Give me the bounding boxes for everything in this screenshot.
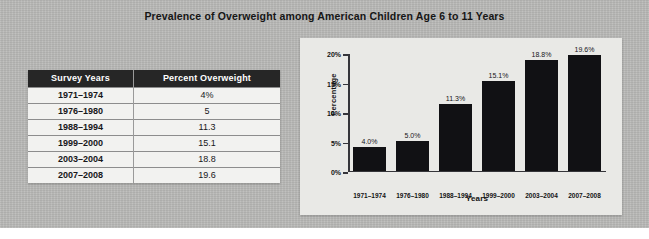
cell-survey-years: 1976–1980 bbox=[28, 104, 134, 120]
table-row: 1988–199411.3 bbox=[28, 120, 280, 136]
bar-value-label: 5.0% bbox=[405, 132, 421, 139]
y-axis-tick-label: 20% bbox=[327, 51, 341, 58]
y-axis-tick bbox=[343, 143, 348, 145]
table-row: 1999–200015.1 bbox=[28, 136, 280, 152]
table-header-row: Survey Years Percent Overweight bbox=[28, 70, 280, 88]
bar bbox=[525, 60, 558, 171]
cell-percent-overweight: 5 bbox=[134, 104, 281, 120]
y-axis-tick bbox=[343, 54, 348, 56]
cell-survey-years: 1988–1994 bbox=[28, 120, 134, 136]
bar bbox=[353, 147, 386, 171]
bar-value-label: 18.8% bbox=[532, 51, 552, 58]
bar bbox=[439, 104, 472, 171]
x-axis-title: Years bbox=[348, 194, 606, 203]
prevalence-table: Survey Years Percent Overweight 1971–197… bbox=[28, 70, 280, 183]
chart-panel: Percentage 0%5%10%15%20% 4.0%5.0%11.3%15… bbox=[300, 38, 622, 215]
y-axis-tick bbox=[343, 84, 348, 86]
bar-value-label: 11.3% bbox=[446, 95, 465, 102]
cell-survey-years: 2007–2008 bbox=[28, 168, 134, 184]
y-axis-tick-label: 10% bbox=[327, 110, 341, 117]
cell-survey-years: 1971–1974 bbox=[28, 88, 134, 104]
cell-survey-years: 2003–2004 bbox=[28, 152, 134, 168]
table-row: 1971–19744% bbox=[28, 88, 280, 104]
cell-percent-overweight: 11.3 bbox=[134, 120, 281, 136]
y-axis-tick-label: 15% bbox=[327, 80, 341, 87]
table-row: 2007–200819.6 bbox=[28, 168, 280, 184]
y-axis-tick bbox=[343, 172, 348, 174]
bar bbox=[568, 55, 601, 171]
bar-value-label: 19.6% bbox=[575, 46, 595, 53]
cell-percent-overweight: 4% bbox=[134, 88, 281, 104]
column-header-survey-years: Survey Years bbox=[28, 70, 134, 88]
figure-title: Prevalence of Overweight among American … bbox=[0, 10, 649, 22]
table-row: 1976–19805 bbox=[28, 104, 280, 120]
y-axis-line bbox=[348, 54, 350, 172]
y-axis-tick bbox=[343, 113, 348, 115]
bar-value-label: 4.0% bbox=[362, 138, 378, 145]
x-axis-line bbox=[348, 171, 606, 173]
plot-area: 0%5%10%15%20% 4.0%5.0%11.3%15.1%18.8%19.… bbox=[348, 54, 606, 172]
column-header-percent-overweight: Percent Overweight bbox=[134, 70, 281, 88]
y-axis-tick-label: 0% bbox=[331, 169, 341, 176]
bar bbox=[482, 81, 515, 170]
cell-survey-years: 1999–2000 bbox=[28, 136, 134, 152]
bar-value-label: 15.1% bbox=[489, 72, 509, 79]
y-axis-tick-label: 5% bbox=[331, 139, 341, 146]
figure-page: Prevalence of Overweight among American … bbox=[0, 0, 649, 239]
cell-percent-overweight: 18.8 bbox=[134, 152, 281, 168]
y-axis-title: Percentage bbox=[329, 60, 338, 130]
table-row: 2003–200418.8 bbox=[28, 152, 280, 168]
cell-percent-overweight: 19.6 bbox=[134, 168, 281, 184]
cell-percent-overweight: 15.1 bbox=[134, 136, 281, 152]
bar bbox=[396, 141, 429, 171]
